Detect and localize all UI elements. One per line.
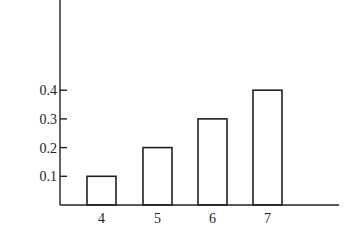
- bar-7: [253, 90, 282, 205]
- y-ticks-group: 0.10.20.30.4: [40, 83, 68, 184]
- bar-chart: 0.10.20.30.4 4567: [0, 0, 356, 245]
- x-tick-label: 7: [264, 211, 271, 226]
- y-tick-label: 0.1: [40, 169, 58, 184]
- y-tick-label: 0.3: [40, 112, 58, 127]
- bar-6: [198, 119, 227, 205]
- bars-group: [87, 90, 282, 205]
- y-tick-label: 0.2: [40, 141, 58, 156]
- bar-4: [87, 176, 116, 205]
- x-tick-label: 5: [154, 211, 161, 226]
- x-tick-label: 4: [98, 211, 105, 226]
- x-labels-group: 4567: [98, 211, 271, 226]
- y-tick-label: 0.4: [40, 83, 58, 98]
- bar-5: [143, 148, 172, 205]
- x-tick-label: 6: [209, 211, 216, 226]
